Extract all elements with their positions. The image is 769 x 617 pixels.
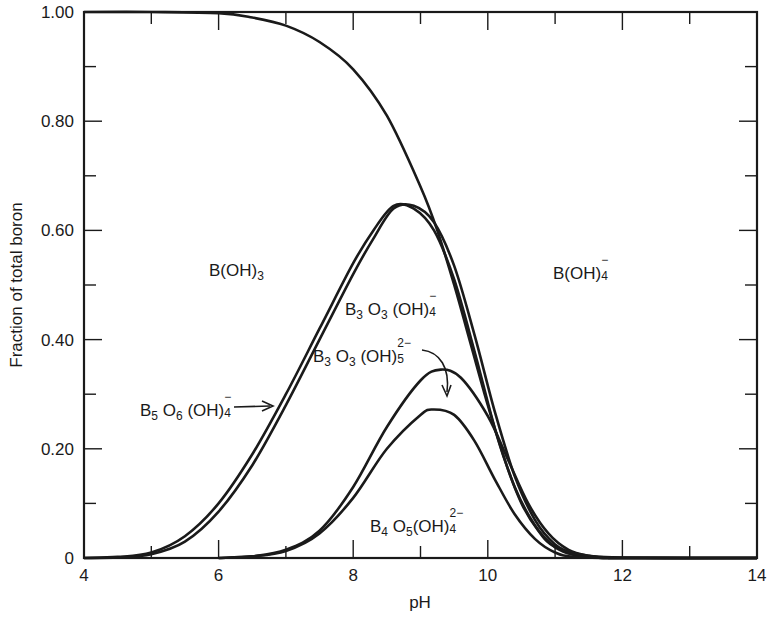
label-b4o5-oh4-2minus: B4 O5(OH)2−4 — [370, 515, 468, 538]
y-tick-label: 0 — [65, 549, 74, 568]
y-tick-label: 0.40 — [41, 331, 74, 350]
y-tick-label: 0.80 — [41, 112, 74, 131]
x-axis-title: pH — [409, 593, 431, 612]
curve-0 — [84, 12, 757, 558]
plot-border — [84, 12, 757, 558]
label-b3o3-oh4-minus: B3 O3 (OH)−4 — [345, 298, 447, 321]
label-b5o6-oh4-minus: B5 O6 (OH)−4 — [140, 399, 242, 422]
axis-ticks: 46810121400.200.400.600.801.00 — [41, 3, 767, 585]
x-tick-label: 12 — [613, 566, 632, 585]
x-tick-label: 6 — [214, 566, 223, 585]
y-tick-label: 0.20 — [41, 440, 74, 459]
y-tick-label: 1.00 — [41, 3, 74, 22]
y-tick-label: 0.60 — [41, 221, 74, 240]
y-axis-title: Fraction of total boron — [7, 202, 26, 367]
label-b3o3-oh5-2minus: B3 O3 (OH)2−5 — [313, 345, 415, 368]
label-b-oh3: B(OH)3 — [209, 262, 264, 282]
x-tick-label: 8 — [348, 566, 357, 585]
curve-4 — [219, 409, 757, 558]
data-curves — [84, 12, 757, 558]
plot-frame — [84, 12, 757, 558]
x-tick-label: 14 — [748, 566, 767, 585]
x-tick-label: 4 — [79, 566, 88, 585]
x-tick-label: 10 — [478, 566, 497, 585]
label-b-oh4-minus: B(OH)−4 — [553, 262, 619, 282]
